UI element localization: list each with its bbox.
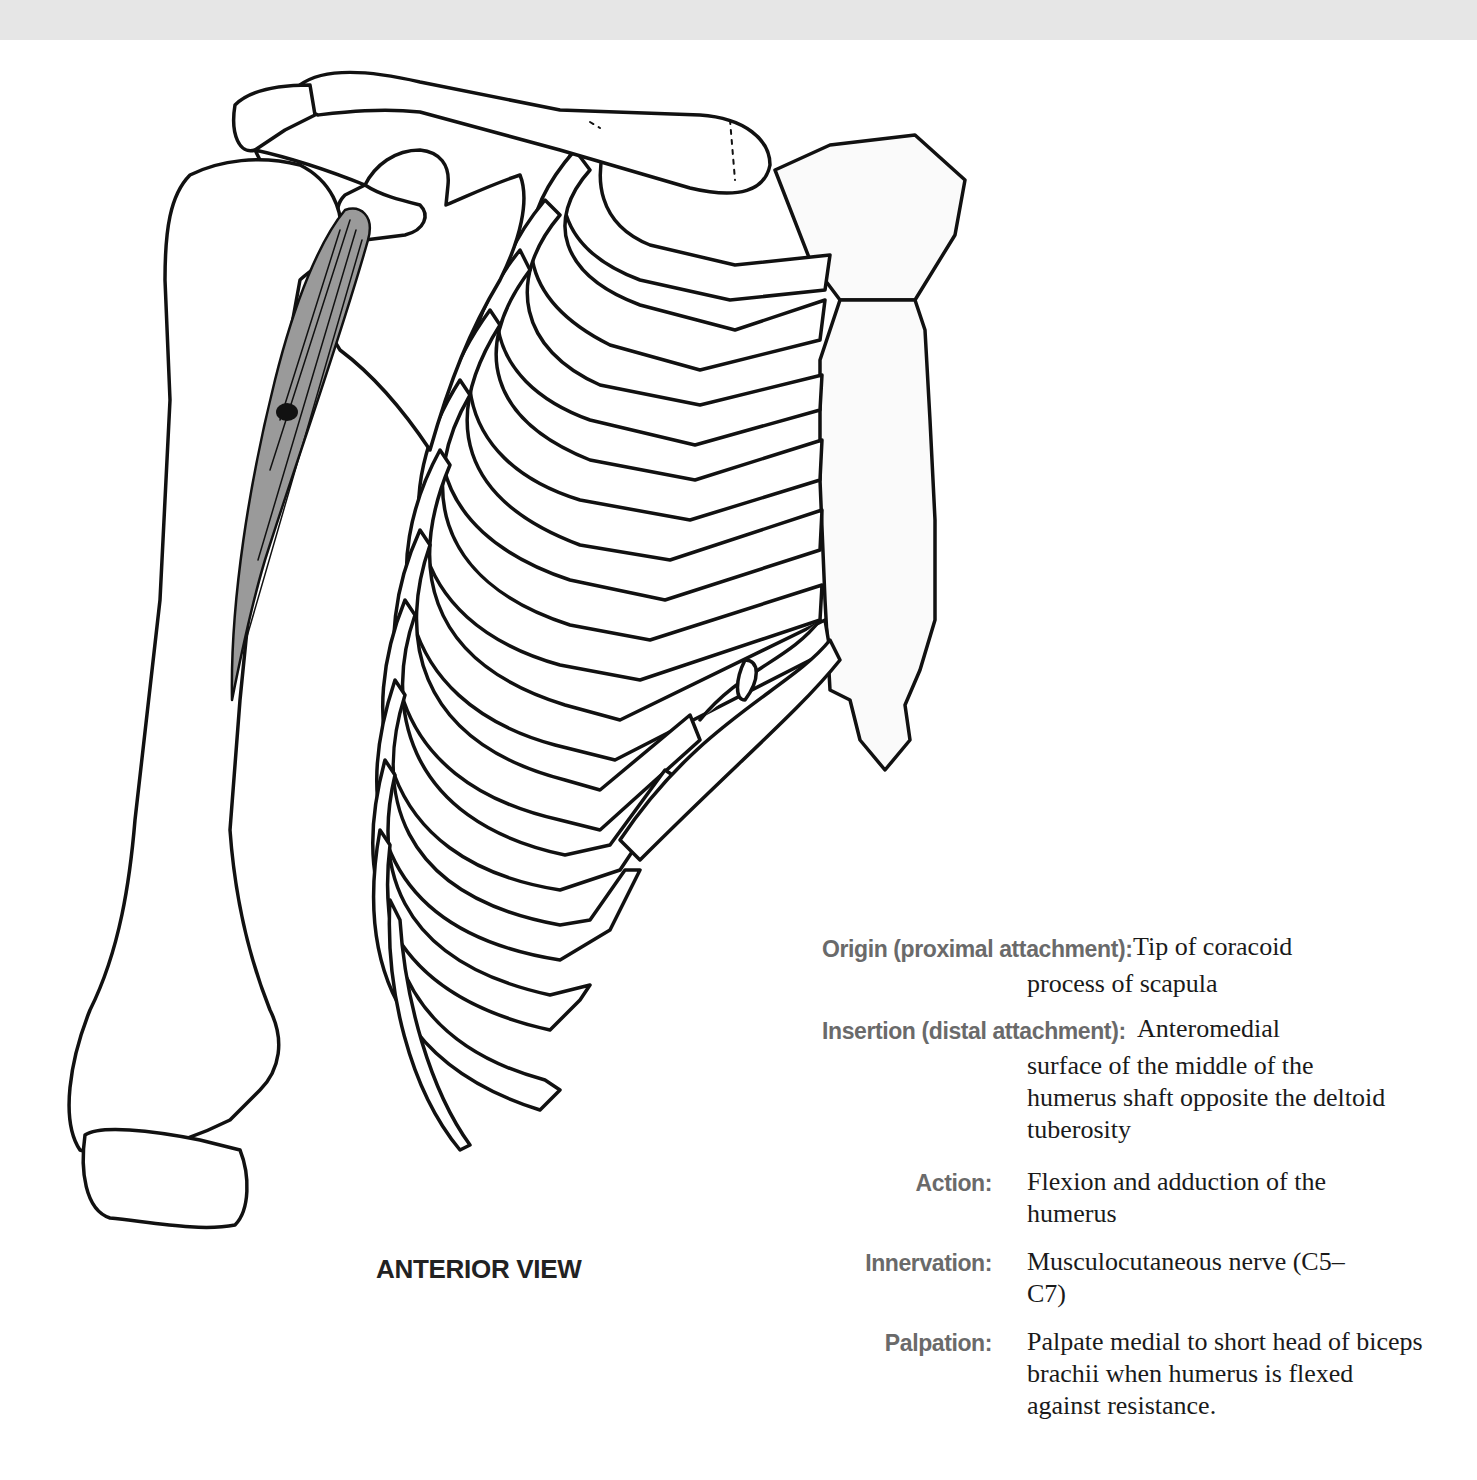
- palpation-label: Palpation:: [820, 1330, 992, 1357]
- figure-caption: ANTERIOR VIEW: [376, 1254, 582, 1285]
- insertion-value-rest: surface of the middle of the humerus sha…: [1027, 1050, 1387, 1146]
- insertion-value-first: Anteromedial: [1137, 1014, 1280, 1044]
- header-band: [0, 0, 1477, 40]
- anatomy-illustration: [0, 40, 1000, 1240]
- origin-value-first: Tip of coracoid: [1133, 932, 1292, 962]
- palpation-value: Palpate medial to short head of biceps b…: [1027, 1326, 1427, 1422]
- action-value: Flexion and adduction of the humerus: [1027, 1166, 1397, 1230]
- origin-value-rest: process of scapula: [1027, 968, 1427, 1000]
- innervation-value: Musculocutaneous nerve (C5–C7): [1027, 1246, 1357, 1310]
- palpation-point: [276, 403, 298, 421]
- origin-label-text: Origin (proximal attachment):: [822, 936, 1132, 963]
- insertion-label-text: Insertion (distal attachment):: [822, 1018, 1126, 1045]
- clavicle: [298, 73, 770, 194]
- action-label: Action:: [820, 1170, 992, 1197]
- innervation-label: Innervation:: [820, 1250, 992, 1277]
